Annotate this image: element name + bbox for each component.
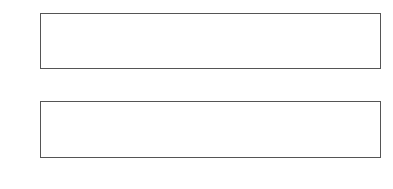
- bottom-waveform: [41, 102, 381, 158]
- bottom-plot-area: [40, 101, 381, 158]
- top-waveform: [41, 14, 381, 69]
- top-plot-area: [40, 13, 381, 69]
